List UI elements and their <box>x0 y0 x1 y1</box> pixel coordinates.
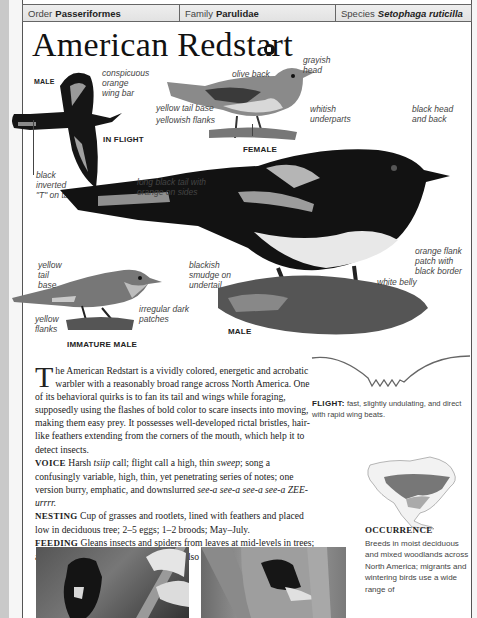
label-wing-bar: wing bar <box>102 88 134 98</box>
label-white-belly: white belly <box>377 277 417 287</box>
intro-text: he American Redstart is a vividly colore… <box>35 365 310 455</box>
label-black-head: black head <box>412 104 453 114</box>
label-yellow: yellow <box>38 260 62 270</box>
family-value: Parulidae <box>216 8 259 19</box>
label-head: head <box>303 65 322 75</box>
drop-cap: T <box>35 365 53 389</box>
family-cell: Family Parulidae <box>180 5 336 21</box>
taxonomy-header: Order Passeriformes Family Parulidae Spe… <box>22 4 472 22</box>
label-yellowish-flanks: yellowish flanks <box>156 115 215 125</box>
label-patches: patches <box>139 314 169 324</box>
label-black: black <box>36 170 56 180</box>
leader-line <box>252 124 253 136</box>
occurrence-heading: OCCURRENCE <box>365 525 470 537</box>
nesting-label: NESTING <box>35 511 78 521</box>
label-undertail: undertail <box>189 280 222 290</box>
label-smudge-on: smudge on <box>189 270 231 280</box>
label-underparts: underparts <box>310 114 351 124</box>
label-blackish: blackish <box>189 260 220 270</box>
order-cell: Order Passeriformes <box>23 5 180 21</box>
leader-line <box>33 120 34 175</box>
label-patch-with: patch with <box>415 256 453 266</box>
label-black-border: black border <box>415 266 462 276</box>
species-value: Setophaga ruticilla <box>378 8 463 19</box>
label-base: base <box>38 280 56 290</box>
label-tail: tail <box>38 270 49 280</box>
flight-pattern-diagram <box>310 352 472 394</box>
species-description: The American Redstart is a vividly color… <box>35 364 315 563</box>
flight-label: FLIGHT: <box>312 399 345 408</box>
male-caption: MALE <box>228 327 251 336</box>
label-orange: orange <box>102 78 128 88</box>
label-grayish: grayish <box>303 55 330 65</box>
page-gutter <box>0 0 9 618</box>
page-title: American Redstart <box>32 26 293 64</box>
label-yellow-tail-base: yellow tail base <box>156 103 214 113</box>
voice-text: Harsh <box>66 457 94 468</box>
species-label: Species <box>341 8 375 19</box>
label-and-back: and back <box>412 114 447 124</box>
order-value: Passeriformes <box>55 8 120 19</box>
voice-label: VOICE <box>35 458 66 468</box>
occurrence-section: OCCURRENCE Breeds in moist deciduous and… <box>365 525 470 595</box>
label-olive-back: olive back <box>232 69 270 79</box>
immature-male-caption: IMMATURE MALE <box>67 340 137 349</box>
range-map <box>360 455 470 530</box>
occurrence-text: Breeds in moist deciduous and mixed wood… <box>365 538 470 596</box>
family-label: Family <box>185 8 213 19</box>
label-yellow-flanks-2: flanks <box>35 324 57 334</box>
speaker-icon[interactable] <box>264 44 275 55</box>
label-whitish: whitish <box>310 104 336 114</box>
photo-male-perched-image <box>36 547 189 618</box>
label-orange-on-sides: orange on sides <box>137 187 198 197</box>
species-cell: Species Setophaga ruticilla <box>336 5 471 21</box>
voice-text: call; flight call a high, thin <box>110 457 217 468</box>
label-irregular-dark: irregular dark <box>139 304 189 314</box>
label-yellow-flanks-1: yellow <box>35 314 59 324</box>
flight-note: FLIGHT: fast, slightly undulating, and d… <box>312 398 472 420</box>
label-conspicuous: conspicuous <box>102 68 149 78</box>
voice-flight-call: sweep <box>217 457 240 468</box>
label-orange-flank: orange flank <box>415 246 462 256</box>
photo-nest <box>201 547 346 618</box>
order-label: Order <box>28 8 52 19</box>
in-flight-caption: IN FLIGHT <box>103 135 144 144</box>
photo-nest-image <box>201 547 346 618</box>
label-long-black-tail: long black tail with <box>137 177 206 187</box>
voice-call: tsiip <box>94 457 111 468</box>
photo-male-perched <box>36 547 189 618</box>
